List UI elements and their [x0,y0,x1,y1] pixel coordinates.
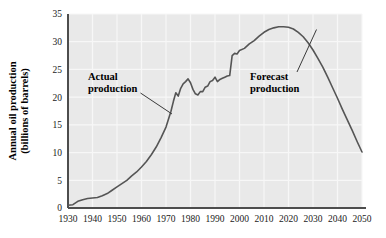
y-tick-label: 0 [57,203,62,213]
actual-production-label-line1: Actual [88,71,118,82]
y-tick-label: 5 [57,176,62,186]
x-tick-label: 1980 [181,214,200,224]
x-tick-label: 1960 [132,214,151,224]
x-tick-label: 1940 [83,214,102,224]
y-tick-label: 30 [53,37,63,47]
y-tick-label: 15 [53,120,63,130]
y-tick-label: 20 [53,93,63,103]
x-tick-label: 2010 [255,214,274,224]
y-axis-title-line2: (billions of barrels) [19,68,31,154]
y-tick-label: 35 [53,9,63,19]
actual-production-label-line2: production [88,83,138,94]
x-tick-label: 1970 [157,214,176,224]
x-tick-label: 2050 [353,214,372,224]
y-tick-label: 10 [53,148,63,158]
x-tick-label: 1990 [206,214,225,224]
x-tick-label: 1950 [108,214,127,224]
x-tick-label: 2040 [328,214,347,224]
x-tick-label: 2020 [279,214,298,224]
oil-production-chart: 05101520253035 1930194019501960197019801… [0,0,386,238]
forecast-production-label-line1: Forecast [250,71,289,82]
chart-canvas: 05101520253035 1930194019501960197019801… [0,0,386,238]
y-tick-label: 25 [53,65,63,75]
forecast-production-label-line2: production [250,83,300,94]
x-tick-label: 2030 [304,214,323,224]
x-tick-label: 2000 [230,214,249,224]
x-tick-label: 1930 [59,214,78,224]
y-axis-title-line1: Annual oil production [7,61,18,160]
